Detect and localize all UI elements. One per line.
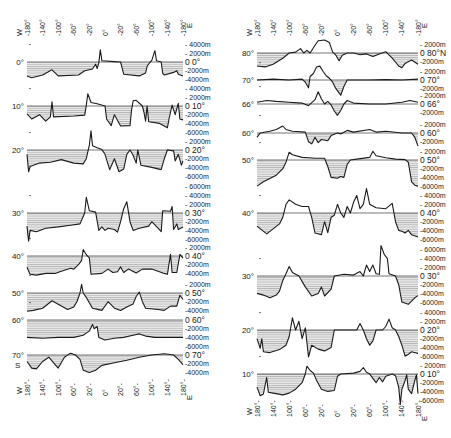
elevation-scale-label: - 2000m [420, 41, 446, 48]
ocean-hatch-fill [27, 197, 183, 241]
east-label: E [185, 395, 194, 400]
latitude-label: 50° [242, 156, 254, 165]
zero-level-label: 0 80°N [420, 48, 446, 58]
longitude-tick-label: 140°- [270, 400, 277, 417]
zero-level-label: 0 0° [185, 57, 200, 67]
elevation-scale-label: -2000m [420, 165, 444, 172]
longitude-tick-label: 20°- [350, 403, 357, 417]
longitude-tick-label: -180° [24, 19, 31, 36]
elevation-scale-label: -6000m [420, 183, 444, 190]
longitude-tick-label: 60°- [302, 403, 309, 417]
elevation-scale-label: -2000m [420, 379, 444, 386]
profile-20deg: 20°- 2000m0 20°-2000m-4000m-6000m [12, 131, 211, 180]
longitude-tick-label: -20° [318, 23, 325, 36]
profile-10deg: 10°- 2000m0 10°-2000m-4000m-6000m [242, 357, 446, 405]
longitude-tick-label: 140°- [398, 400, 405, 417]
elevation-scale-label: -2000m [185, 218, 209, 225]
elevation-scale-label: -4000m [420, 344, 444, 351]
longitude-axis-bottom: 180°-140°-100°-60°-20°-0°20°-60°-100°-14… [245, 400, 429, 421]
longitude-tick-label: -20° [117, 23, 124, 36]
elevation-scale-label: -2000m [185, 261, 209, 268]
elevation-scale-label: -6000m [185, 343, 209, 350]
elevation-scale-label: - 4000m [185, 192, 211, 199]
elevation-scale-label: - 2000m [185, 244, 211, 251]
latitude-label: 30° [12, 209, 24, 218]
longitude-tick-label: -140° [270, 19, 277, 36]
profile-10deg: 10°- 4000m- 2000m0 10°-2000m-4000m-6000m [12, 85, 211, 136]
latitude-label: 20° [12, 146, 24, 155]
longitude-tick-label: -60° [70, 23, 77, 36]
profile-70deg: 70°0 70°-2000m-4000m [12, 338, 209, 376]
longitude-tick-label: -140° [39, 19, 46, 36]
zero-level-label: 0 50° [185, 288, 205, 298]
elevation-scale-label: -4000m [420, 227, 444, 234]
elevation-scale-label: -2000m [420, 58, 444, 65]
longitude-tick-label: 60°- [366, 403, 373, 417]
ocean-hatch-fill [257, 40, 418, 68]
longitude-tick-label: 140°- [39, 379, 46, 396]
left-panel-southern-hemisphere: -180°-140°-100°-60°-20°0°-20°-60°-100°-1… [12, 19, 211, 400]
longitude-tick-label: 0° [102, 29, 109, 36]
longitude-tick-label: 100°- [55, 379, 62, 396]
elevation-scale-label: - 2000m [185, 281, 211, 288]
elevation-scale-label: - 4000m [420, 309, 446, 316]
zero-level-label: 0 60° [420, 128, 440, 138]
longitude-axis-top: -180°-140°-100°-60°-20°0°-20°-60°-100°-1… [15, 19, 194, 36]
elevation-scale-label: -4000m [185, 334, 209, 341]
elevation-scale-label: - 2000m [185, 201, 211, 208]
longitude-tick-label: -20° [350, 23, 357, 36]
zero-level-label: 0 70° [185, 350, 205, 360]
ocean-hatch-fill [257, 318, 418, 357]
longitude-axis-bottom: 180°-140°-100°-60°-20°-0°20°-60°-100°-14… [15, 379, 194, 400]
elevation-scale-label: - 2000m [420, 318, 446, 325]
elevation-scale-label: -6000m [420, 236, 444, 243]
zero-level-label: 0 30° [185, 208, 205, 218]
profile-30deg: 30°- 6000m- 4000m- 2000m0 30°-2000m-4000… [12, 183, 211, 242]
elevation-scale-label: -4000m [185, 307, 209, 314]
profile-40deg: 40°- 4000m- 2000m0 40°-2000m-4000m-6000m [242, 189, 446, 243]
west-label: W [15, 28, 24, 36]
longitude-tick-label: -100° [286, 19, 293, 36]
elevation-scale-label: - 4000m [185, 41, 211, 48]
latitude-label: 20° [242, 326, 254, 335]
elevation-scale-label: - 2000m [420, 92, 446, 99]
longitude-tick-label: -100° [55, 19, 62, 36]
zero-level-label: 0 10° [420, 369, 440, 379]
elevation-scale-label: -4000m [420, 290, 444, 297]
latitude-label: 60° [12, 316, 24, 325]
longitude-tick-label: 100°- [382, 400, 389, 417]
elevation-scale-label: - 4000m [420, 255, 446, 262]
elevation-scale-label: -6000m [185, 236, 209, 243]
west-label: W [245, 28, 254, 36]
profile-60deg: 60°0 60°-2000m-4000m-6000m [12, 303, 209, 350]
longitude-tick-label: 60°- [133, 382, 140, 396]
elevation-scale-label: -4000m [420, 174, 444, 181]
longitude-tick-label: -100° [382, 19, 389, 36]
elevation-scale-label: - 2000m [185, 138, 211, 145]
elevation-scale-label: -4000m [185, 76, 209, 83]
elevation-scale-label: -4000m [185, 227, 209, 234]
elevation-scale-label: -4000m [185, 270, 209, 277]
east-label: E [420, 416, 429, 421]
elevation-scale-label: -4000m [420, 388, 444, 395]
latitude-label: 70° [12, 351, 24, 360]
elevation-scale-label: - 2000m [420, 68, 446, 75]
latitude-label: 40° [242, 209, 254, 218]
elevation-scale-label: -6000m [185, 129, 209, 136]
elevation-scale-label: - 2000m [420, 201, 446, 208]
elevation-scale-label: - 2000m [185, 94, 211, 101]
profile-30deg: 30°- 6000m- 4000m- 2000m0 30°-2000m-4000… [242, 246, 446, 306]
zero-level-label: 0 20° [420, 325, 440, 335]
zero-level-label: 0 30° [420, 271, 440, 281]
zero-level-label: 0 40° [185, 251, 205, 261]
longitude-axis-top: -180°-140°-100°-60°-20°0°-20°-60°-100°-1… [245, 19, 429, 36]
latitude-label: 80° [242, 49, 254, 58]
longitude-tick-label: 20°- [86, 382, 93, 396]
elevation-scale-label: -2000m [185, 325, 209, 332]
profile-20deg: 20°- 4000m- 2000m0 20°-2000m-4000m-6000m [242, 309, 446, 360]
latitude-label: 66° [242, 100, 254, 109]
longitude-tick-label: 180°- [254, 400, 261, 417]
south-label: S [15, 361, 20, 370]
ocean-hatch-fill [27, 50, 183, 78]
longitude-tick-label: -60° [302, 23, 309, 36]
